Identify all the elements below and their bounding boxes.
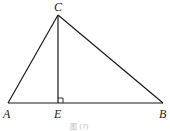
label-b: B [159, 107, 167, 121]
right-angle-marker [58, 98, 63, 103]
figure-caption: 图 (?) [70, 123, 89, 131]
segment-ac [8, 15, 58, 103]
triangle-diagram: C A E B 图 (?) [0, 0, 170, 131]
segment-cb [58, 15, 163, 103]
label-c: C [54, 0, 63, 14]
label-a: A [2, 107, 11, 121]
label-e: E [53, 107, 62, 121]
